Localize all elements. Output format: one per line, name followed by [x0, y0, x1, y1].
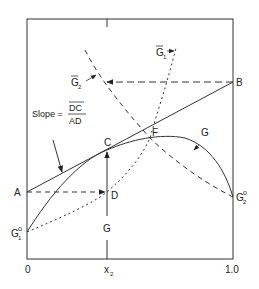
label-G2bar-sub: 2 — [78, 84, 82, 90]
G2bar-arrow — [86, 75, 96, 81]
plot-frame — [27, 19, 233, 259]
label-G2o-sub: 2 — [243, 199, 247, 205]
label-C: C — [104, 137, 111, 148]
label-B: B — [236, 77, 243, 88]
tangent-intercept-diagram: A B C D F G G G 2 G 1 G 1 o G 2 o Slope … — [0, 0, 259, 289]
label-G-curve: G — [201, 127, 209, 138]
label-A: A — [14, 187, 21, 198]
x-axis-min: 0 — [25, 264, 31, 275]
slope-arrow — [53, 140, 62, 172]
label-F: F — [152, 127, 158, 138]
label-G1o-sup: o — [18, 225, 22, 232]
slope-numerator: DC — [69, 103, 82, 113]
label-G1bar-sub: 1 — [163, 54, 167, 60]
slope-denominator: AD — [69, 116, 82, 126]
x-axis-var: x — [104, 264, 109, 275]
label-G1o-sub: 1 — [18, 235, 22, 241]
label-G2o-sup: o — [243, 189, 247, 196]
x-axis-var-sub: 2 — [110, 271, 114, 277]
label-G-vertical: G — [103, 223, 111, 234]
G-label-arrow — [194, 145, 199, 150]
slope-prefix: Slope = — [32, 109, 63, 119]
curve-G — [27, 136, 233, 232]
label-D: D — [111, 190, 118, 201]
curve-G1bar — [27, 48, 176, 232]
x-axis-max: 1.0 — [225, 264, 239, 275]
